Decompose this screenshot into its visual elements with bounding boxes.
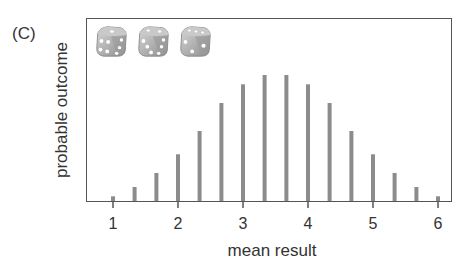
- bar: [263, 75, 267, 201]
- bar: [176, 154, 180, 201]
- x-axis-label: mean result: [228, 241, 317, 261]
- bar: [154, 173, 158, 201]
- bar: [306, 84, 310, 201]
- bar: [241, 84, 245, 201]
- bar: [349, 131, 353, 201]
- x-tick-label: 1: [109, 215, 118, 233]
- bar: [393, 173, 397, 201]
- bar: [219, 103, 223, 201]
- bar: [414, 187, 418, 201]
- x-tick-label: 3: [239, 215, 248, 233]
- bar: [328, 103, 332, 201]
- bar: [133, 187, 137, 201]
- x-tick-label: 5: [369, 215, 378, 233]
- x-tick-label: 6: [434, 215, 443, 233]
- bar: [111, 196, 115, 201]
- x-tick-label: 2: [174, 215, 183, 233]
- bar: [284, 75, 288, 201]
- bar: [371, 154, 375, 201]
- bar: [436, 196, 440, 201]
- bar-chart: [0, 0, 456, 274]
- x-tick-label: 4: [304, 215, 313, 233]
- bar: [198, 131, 202, 201]
